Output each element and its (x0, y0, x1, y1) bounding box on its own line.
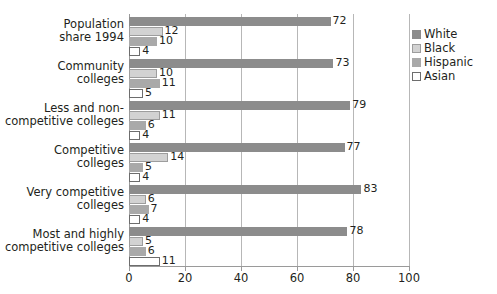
bar-asian (129, 131, 140, 140)
bar-row: 6 (129, 195, 409, 204)
bar-value-label: 79 (350, 98, 366, 112)
bar-group: 791164 (129, 101, 409, 141)
x-tick-label: 40 (234, 271, 249, 285)
bar-white (129, 227, 347, 236)
bar-asian (129, 215, 140, 224)
bar-row: 10 (129, 37, 409, 46)
category-label: Communitycolleges (0, 60, 124, 86)
bar-black (129, 111, 160, 120)
bar-group: 7310115 (129, 59, 409, 99)
bar-value-label: 6 (146, 244, 155, 258)
bar-value-label: 77 (345, 140, 361, 154)
legend-swatch-hispanic (412, 58, 421, 67)
bar-asian (129, 47, 140, 56)
bar-chart: Populationshare 1994CommunitycollegesLes… (0, 0, 497, 294)
bar-white (129, 143, 345, 152)
bar-value-label: 83 (361, 182, 377, 196)
category-axis-labels: Populationshare 1994CommunitycollegesLes… (0, 14, 124, 266)
bar-row: 11 (129, 257, 409, 266)
x-tick-label: 20 (178, 271, 193, 285)
bar-row: 11 (129, 79, 409, 88)
x-tick-label: 100 (398, 271, 420, 285)
plot-area: 7212104731011579116477145483674785611 (129, 14, 409, 266)
bar-black (129, 237, 143, 246)
legend-label: Black (424, 42, 455, 55)
bar-row: 5 (129, 237, 409, 246)
bar-group: 83674 (129, 185, 409, 225)
category-label: Populationshare 1994 (0, 18, 124, 44)
bar-row: 83 (129, 185, 409, 194)
bar-group: 785611 (129, 227, 409, 267)
category-label: Very competitivecolleges (0, 186, 124, 212)
bar-value-label: 72 (331, 14, 347, 28)
category-label: Competitivecolleges (0, 144, 124, 170)
bar-white (129, 17, 331, 26)
bar-asian (129, 89, 143, 98)
bar-value-label: 10 (157, 34, 173, 48)
bar-value-label: 4 (140, 128, 149, 142)
legend-swatch-asian (412, 72, 421, 81)
bar-black (129, 69, 157, 78)
x-tick-label: 80 (346, 271, 361, 285)
legend-item-asian: Asian (412, 70, 492, 83)
bar-value-label: 5 (143, 86, 152, 100)
legend-swatch-black (412, 44, 421, 53)
bar-row: 4 (129, 47, 409, 56)
bar-hispanic (129, 247, 146, 256)
bar-value-label: 78 (347, 224, 363, 238)
chart-legend: WhiteBlackHispanicAsian (412, 28, 492, 84)
legend-label: White (424, 28, 457, 41)
bar-row: 5 (129, 89, 409, 98)
legend-label: Hispanic (424, 56, 473, 69)
bar-value-label: 7 (149, 202, 158, 216)
legend-item-black: Black (412, 42, 492, 55)
bar-black (129, 195, 146, 204)
bar-asian (129, 257, 160, 266)
category-label: Most and highlycompetitive colleges (0, 228, 124, 254)
gridline (409, 14, 410, 266)
bar-row: 14 (129, 153, 409, 162)
bar-row: 6 (129, 121, 409, 130)
bar-row: 4 (129, 131, 409, 140)
bar-row: 78 (129, 227, 409, 236)
legend-item-hispanic: Hispanic (412, 56, 492, 69)
bar-row: 4 (129, 215, 409, 224)
x-axis-ticks: 020406080100 (129, 267, 410, 289)
category-label: Less and non-competitive colleges (0, 102, 124, 128)
x-tick-label: 60 (290, 271, 305, 285)
bar-group: 771454 (129, 143, 409, 183)
bar-value-label: 14 (168, 150, 184, 164)
bar-value-label: 4 (140, 44, 149, 58)
bar-value-label: 73 (333, 56, 349, 70)
bar-row: 11 (129, 111, 409, 120)
bar-value-label: 11 (160, 76, 176, 90)
bar-asian (129, 173, 140, 182)
x-tick-label: 0 (125, 271, 132, 285)
bar-value-label: 11 (160, 108, 176, 122)
legend-item-white: White (412, 28, 492, 41)
bar-group: 7212104 (129, 17, 409, 57)
bar-row: 7 (129, 205, 409, 214)
bar-row: 4 (129, 173, 409, 182)
legend-swatch-white (412, 30, 421, 39)
bar-white (129, 185, 361, 194)
bar-value-label: 4 (140, 212, 149, 226)
legend-label: Asian (424, 70, 455, 83)
bar-value-label: 4 (140, 170, 149, 184)
bar-row: 5 (129, 163, 409, 172)
